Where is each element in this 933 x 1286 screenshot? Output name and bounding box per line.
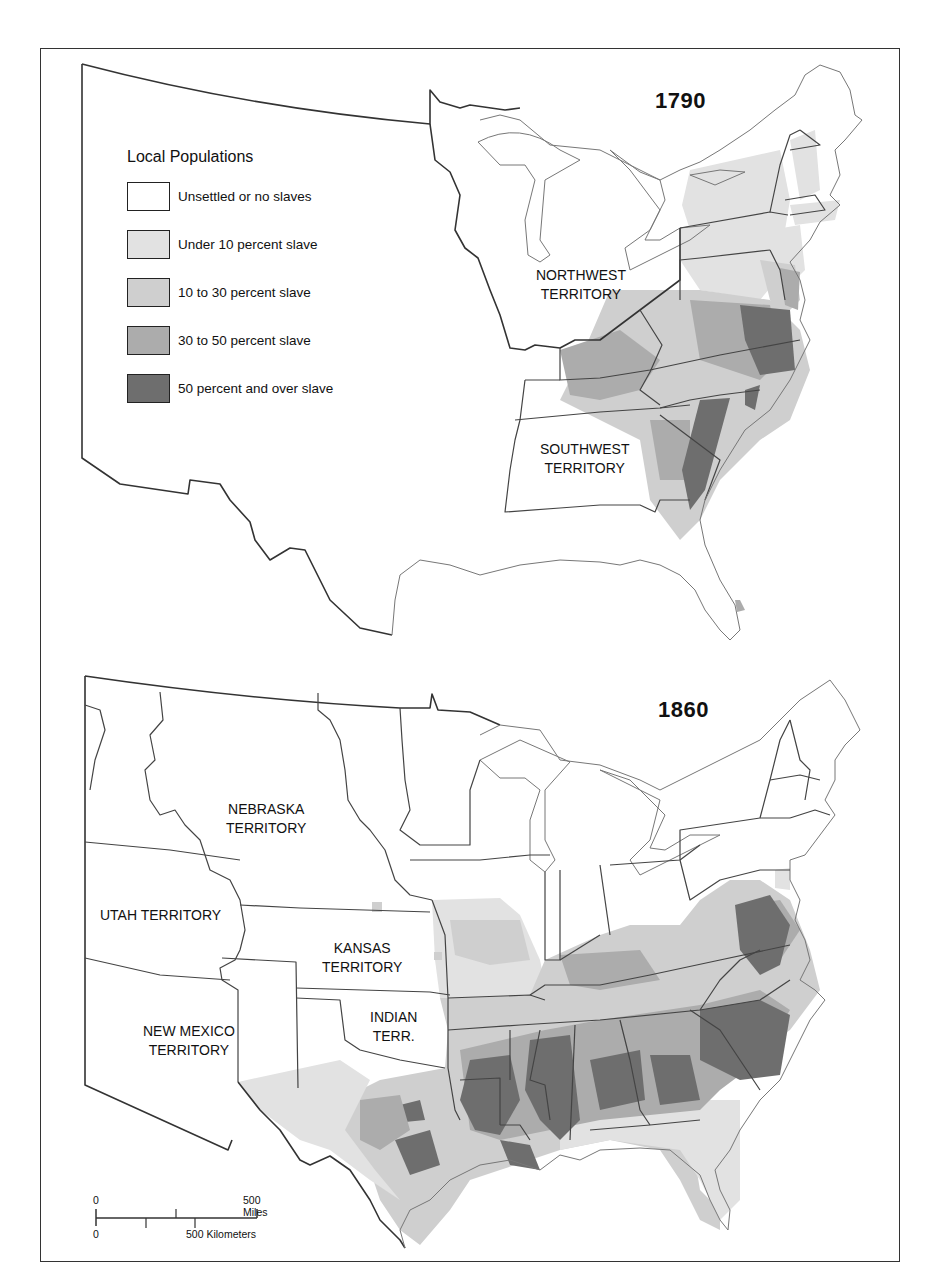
legend-label: 30 to 50 percent slave [178, 333, 311, 348]
label-line: NEBRASKA [226, 800, 306, 819]
legend-swatch [127, 182, 170, 211]
scale-bar: 0 500 Miles 0 500 Kilometers [90, 1190, 270, 1245]
label-line: TERRITORY [226, 819, 306, 838]
label-line: TERRITORY [540, 459, 629, 478]
legend-swatch [127, 278, 170, 307]
legend-item-unsettled: Unsettled or no slaves [127, 181, 333, 211]
label-line: TERR. [370, 1027, 417, 1046]
scale-km-label: 500 Kilometers [186, 1228, 256, 1240]
map-1860 [85, 676, 860, 1248]
legend-label: Under 10 percent slave [178, 237, 318, 252]
region-label-utah-territory: UTAH TERRITORY [100, 906, 221, 925]
scale-miles-zero: 0 [93, 1194, 99, 1206]
region-label-southwest-territory: SOUTHWEST TERRITORY [540, 440, 629, 478]
label-line: TERRITORY [322, 958, 402, 977]
label-line: NEW MEXICO [143, 1022, 235, 1041]
region-label-kansas-territory: KANSAS TERRITORY [322, 939, 402, 977]
scale-km-zero: 0 [93, 1228, 99, 1240]
legend-swatch [127, 230, 170, 259]
legend-swatch [127, 374, 170, 403]
legend-item-under-10: Under 10 percent slave [127, 229, 333, 259]
label-line: TERRITORY [536, 285, 626, 304]
label-line: UTAH TERRITORY [100, 906, 221, 925]
legend-label: 50 percent and over slave [178, 381, 333, 396]
legend-item-50-plus: 50 percent and over slave [127, 373, 333, 403]
region-label-nebraska-territory: NEBRASKA TERRITORY [226, 800, 306, 838]
scale-miles-label: 500 Miles [243, 1194, 270, 1218]
legend-item-30-50: 30 to 50 percent slave [127, 325, 333, 355]
label-line: SOUTHWEST [540, 440, 629, 459]
label-line: NORTHWEST [536, 266, 626, 285]
label-line: KANSAS [322, 939, 402, 958]
legend: Local Populations Unsettled or no slaves… [127, 148, 333, 421]
legend-label: Unsettled or no slaves [178, 189, 312, 204]
legend-swatch [127, 326, 170, 355]
region-label-indian-territory: INDIAN TERR. [370, 1008, 417, 1046]
year-label-1790: 1790 [655, 88, 706, 114]
label-line: INDIAN [370, 1008, 417, 1027]
legend-label: 10 to 30 percent slave [178, 285, 311, 300]
region-label-northwest-territory: NORTHWEST TERRITORY [536, 266, 626, 304]
legend-item-10-30: 10 to 30 percent slave [127, 277, 333, 307]
legend-title: Local Populations [127, 148, 333, 166]
label-line: TERRITORY [143, 1041, 235, 1060]
year-label-1860: 1860 [658, 697, 709, 723]
region-label-new-mexico-territory: NEW MEXICO TERRITORY [143, 1022, 235, 1060]
